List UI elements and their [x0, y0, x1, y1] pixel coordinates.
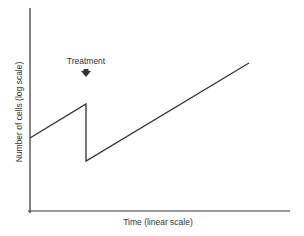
cell-count-line [30, 63, 249, 161]
y-axis-label: Number of cells (log scale) [14, 62, 24, 163]
down-arrow-icon-stem [84, 69, 89, 72]
chart: Treatment Time (linear scale) Number of … [0, 0, 304, 236]
treatment-label: Treatment [67, 56, 106, 66]
x-axis-label: Time (linear scale) [123, 217, 193, 227]
